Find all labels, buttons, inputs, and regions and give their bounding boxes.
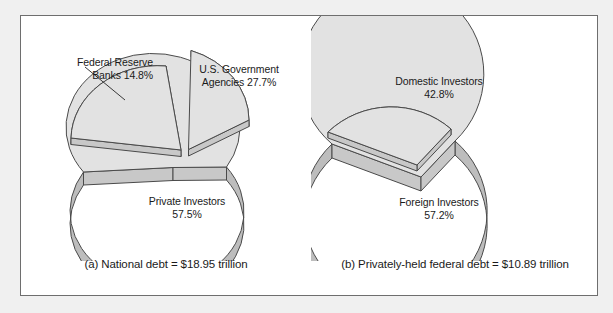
panel-a-caption: (a) National debt = $18.95 trillion — [21, 258, 311, 270]
pie-chart-panel-a: .top{fill:#e2e2e2;stroke:#4a4a4a;stroke-… — [21, 16, 311, 297]
slice-label-domestic-investors: Domestic Investors 42.8% — [369, 75, 509, 100]
panel-b-caption: (b) Privately-held federal debt = $10.89… — [311, 258, 599, 270]
slice-label-foreign-investors: Foreign Investors 57.2% — [369, 196, 509, 221]
slice-label-federal-reserve-banks: Federal Reserve Banks 14.8% — [31, 56, 153, 81]
slice-label-line-1: Private Investors — [149, 195, 226, 207]
pie-chart-a-graphic: .top{fill:#e2e2e2;stroke:#4a4a4a;stroke-… — [21, 16, 311, 261]
slice-label-line-2: Agencies 27.7% — [181, 76, 297, 89]
slice-label-line-2: 42.8% — [369, 88, 509, 101]
slice-label-line-1: Domestic Investors — [395, 75, 482, 87]
slice-label-line-1: U.S. Government — [199, 63, 279, 75]
slice-label-line-1: Foreign Investors — [399, 196, 478, 208]
slice-label-line-2: Banks 14.8% — [31, 69, 153, 82]
figure-frame: .top{fill:#e2e2e2;stroke:#4a4a4a;stroke-… — [20, 15, 598, 296]
slice-label-line-1: Federal Reserve — [77, 56, 153, 68]
pie-chart-b-graphic — [311, 16, 599, 261]
slice-label-private-investors: Private Investors 57.5% — [129, 195, 245, 220]
slice-label-us-government-agencies: U.S. Government Agencies 27.7% — [181, 63, 297, 88]
pie-chart-panel-b: Domestic Investors 42.8% Foreign Investo… — [311, 16, 599, 297]
slice-label-line-2: 57.2% — [369, 209, 509, 222]
slice-label-line-2: 57.5% — [129, 208, 245, 221]
